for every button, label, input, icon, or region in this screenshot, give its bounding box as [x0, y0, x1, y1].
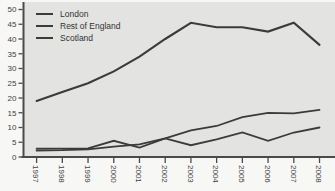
legend-line-swatch [36, 25, 53, 27]
x-tick-label: 2006 [263, 165, 272, 183]
legend-label: London [60, 9, 88, 19]
y-tick-label: 0 [12, 153, 17, 162]
legend-line-swatch [36, 37, 53, 39]
y-tick-label: 45 [8, 20, 17, 29]
y-tick-label: 20 [8, 94, 17, 103]
legend-item-scotland: Scotland [36, 33, 120, 43]
y-tick-label: 30 [8, 64, 17, 73]
legend-label: Scotland [60, 33, 93, 43]
x-tick-label: 1998 [57, 165, 66, 183]
line-chart: 0510152025303540455019971998199920002001… [0, 0, 335, 191]
x-tick-label: 2004 [211, 165, 220, 183]
legend-label: Rest of England [60, 21, 120, 31]
y-tick-label: 50 [8, 5, 17, 14]
legend-item-rest-of-england: Rest of England [36, 21, 120, 31]
x-tick-label: 2008 [314, 165, 323, 183]
y-tick-label: 35 [8, 50, 17, 59]
x-tick-label: 2001 [134, 165, 143, 183]
legend-item-london: London [36, 9, 120, 19]
x-tick-label: 1999 [83, 165, 92, 183]
legend: LondonRest of EnglandScotland [36, 9, 120, 43]
x-tick-label: 1997 [31, 165, 40, 183]
legend-line-swatch [36, 13, 53, 15]
x-tick-label: 2005 [237, 165, 246, 183]
x-tick-label: 2003 [186, 165, 195, 183]
x-tick-label: 2000 [109, 165, 118, 183]
y-tick-label: 5 [12, 138, 17, 147]
x-tick-label: 2002 [160, 165, 169, 183]
x-tick-label: 2007 [289, 165, 298, 183]
y-tick-label: 25 [8, 79, 17, 88]
y-tick-label: 10 [8, 123, 17, 132]
y-tick-label: 15 [8, 109, 17, 118]
y-tick-label: 40 [8, 35, 17, 44]
